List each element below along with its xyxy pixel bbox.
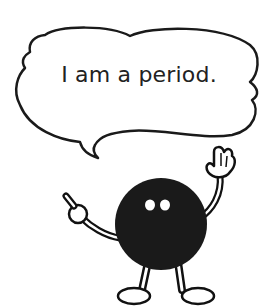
period-body bbox=[115, 178, 207, 270]
left-foot bbox=[118, 288, 150, 304]
speech-bubble-text: I am a period. bbox=[34, 62, 244, 87]
right-eye bbox=[160, 200, 170, 211]
left-eye bbox=[145, 200, 155, 211]
cartoon-svg bbox=[0, 0, 267, 308]
left-arm bbox=[82, 218, 120, 238]
right-foot bbox=[182, 288, 214, 304]
speech-bubble bbox=[16, 28, 257, 158]
illustration: I am a period. bbox=[0, 0, 267, 308]
